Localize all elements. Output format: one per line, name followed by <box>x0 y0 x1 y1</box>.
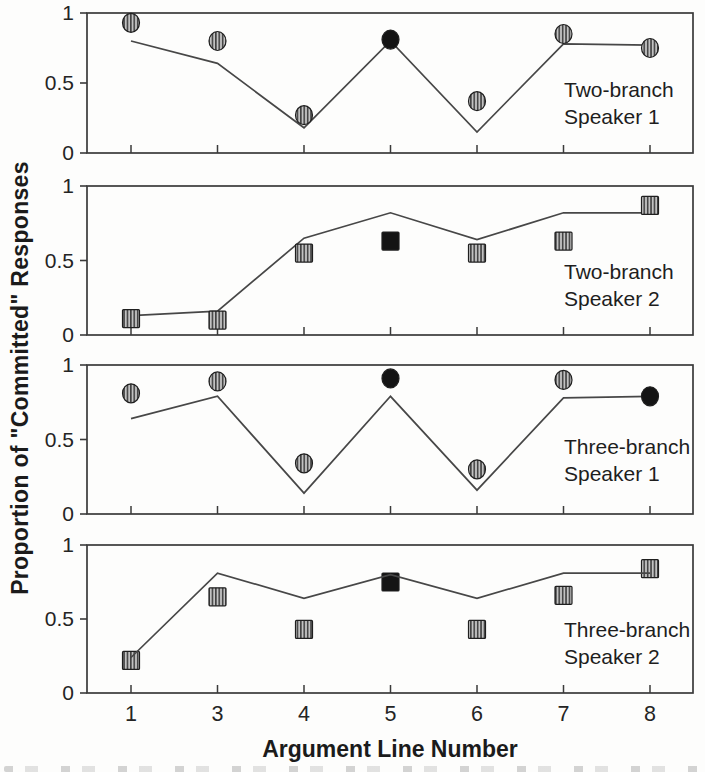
hatched-square-marker <box>209 311 226 329</box>
filled-circle-marker <box>382 30 399 49</box>
panel-label-line: Two-branch <box>564 78 674 101</box>
panel-label-line: Three-branch <box>564 618 690 641</box>
hatched-square-marker <box>469 244 486 262</box>
panel-label-three-branch-speaker-1: Three-branch Speaker 1 <box>564 433 694 487</box>
panel-label-line: Speaker 1 <box>564 462 660 485</box>
hatched-circle-marker <box>555 25 572 44</box>
hatched-square-marker <box>296 620 313 638</box>
y-tick-label: 1 <box>62 1 74 24</box>
filled-circle-marker <box>642 387 659 406</box>
y-tick-label: 1 <box>62 533 74 556</box>
y-tick-label: 0 <box>62 141 74 164</box>
filled-circle-marker <box>382 369 399 388</box>
hatched-square-marker <box>642 196 659 214</box>
hatched-square-marker <box>209 588 226 606</box>
hatched-square-marker <box>555 586 572 604</box>
y-tick-label: 0 <box>62 681 74 704</box>
y-tick-label: 1 <box>62 353 74 376</box>
hatched-square-marker <box>469 620 486 638</box>
hatched-circle-marker <box>469 460 486 479</box>
panel-label-line: Speaker 2 <box>564 645 660 668</box>
x-tick-label: 7 <box>558 702 570 726</box>
y-tick-label: 0 <box>62 502 74 525</box>
hatched-circle-marker <box>296 454 313 473</box>
y-tick-label: 0 <box>62 323 74 346</box>
panel-label-two-branch-speaker-1: Two-branch Speaker 1 <box>564 76 694 130</box>
x-axis-title: Argument Line Number <box>87 736 693 763</box>
hatched-square-marker <box>123 310 140 328</box>
panel-label-line: Three-branch <box>564 435 690 458</box>
hatched-square-marker <box>555 232 572 250</box>
y-tick-label: 0.5 <box>45 249 74 272</box>
y-tick-label: 0.5 <box>45 71 74 94</box>
hatched-circle-marker <box>642 39 659 58</box>
hatched-square-marker <box>642 560 659 578</box>
hatched-circle-marker <box>555 370 572 389</box>
x-tick-label: 8 <box>644 702 656 726</box>
panel-label-line: Speaker 1 <box>564 105 660 128</box>
y-tick-label: 0.5 <box>45 607 74 630</box>
caption-fragment <box>4 766 701 772</box>
panel-label-two-branch-speaker-2: Two-branch Speaker 2 <box>564 258 694 312</box>
hatched-circle-marker <box>123 13 140 32</box>
filled-square-marker <box>382 232 399 250</box>
x-tick-label: 3 <box>212 702 224 726</box>
panel-label-line: Two-branch <box>564 260 674 283</box>
hatched-circle-marker <box>296 106 313 125</box>
hatched-circle-marker <box>469 92 486 111</box>
hatched-circle-marker <box>209 372 226 391</box>
x-tick-label: 6 <box>471 702 483 726</box>
figure: 10.5010.5010.5010.501345678 Proportion o… <box>0 0 705 772</box>
panel-label-three-branch-speaker-2: Three-branch Speaker 2 <box>564 616 694 670</box>
hatched-square-marker <box>123 651 140 669</box>
hatched-square-marker <box>296 244 313 262</box>
y-axis-title: Proportion of "Committed" Responses <box>7 161 34 595</box>
panel-label-line: Speaker 2 <box>564 287 660 310</box>
hatched-circle-marker <box>123 384 140 403</box>
y-tick-label: 0.5 <box>45 428 74 451</box>
hatched-circle-marker <box>209 32 226 51</box>
x-tick-label: 4 <box>298 702 310 726</box>
x-tick-label: 1 <box>125 702 137 726</box>
x-tick-label: 5 <box>385 702 397 726</box>
y-tick-label: 1 <box>62 174 74 197</box>
